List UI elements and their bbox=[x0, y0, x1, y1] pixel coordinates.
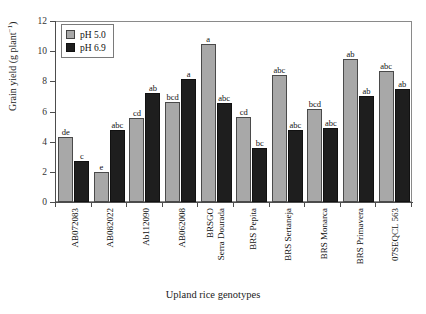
bar-ph50: bcd bbox=[165, 102, 180, 202]
x-tick bbox=[126, 202, 127, 207]
x-tick bbox=[197, 202, 198, 207]
bar-ph69: ab bbox=[145, 93, 160, 202]
bar-value-annotation: abc bbox=[273, 65, 285, 75]
bar-value-annotation: e bbox=[100, 162, 104, 172]
bar-ph69: abc bbox=[288, 130, 303, 202]
bar-value-annotation: bcd bbox=[166, 92, 178, 102]
y-tick-label: 10 bbox=[38, 46, 48, 56]
legend: pH 5.0pH 6.9 bbox=[61, 24, 114, 58]
bar-group: cdbc bbox=[234, 21, 270, 202]
legend-item: pH 6.9 bbox=[66, 41, 106, 54]
bar-value-annotation: ab bbox=[149, 83, 157, 93]
bar-value-annotation: abc bbox=[289, 120, 301, 130]
bar-group: abcabc bbox=[270, 21, 306, 202]
legend-swatch bbox=[66, 43, 75, 52]
bar-group: cdab bbox=[127, 21, 163, 202]
x-axis bbox=[55, 202, 413, 203]
x-tick bbox=[375, 202, 376, 207]
x-axis-title: Upland rice genotypes bbox=[0, 289, 426, 300]
x-tick bbox=[269, 202, 270, 207]
bar-value-annotation: ab bbox=[398, 79, 406, 89]
bar-value-annotation: ab bbox=[347, 49, 355, 59]
y-tick bbox=[50, 81, 55, 82]
bar-value-annotation: abc bbox=[325, 118, 337, 128]
bar-group: abcab bbox=[376, 21, 412, 202]
bar-ph50: cd bbox=[236, 117, 251, 202]
y-axis-title-exponent: −1 bbox=[6, 25, 14, 32]
y-tick-label: 0 bbox=[42, 197, 47, 207]
y-tick-label: 8 bbox=[42, 76, 47, 86]
bar-ph69: abc bbox=[323, 128, 338, 202]
y-tick bbox=[50, 172, 55, 173]
bar-group: bcda bbox=[163, 21, 199, 202]
bar-ph69: abc bbox=[110, 130, 125, 202]
bar-group: abab bbox=[341, 21, 377, 202]
y-axis-title: Grain yield (g plant−1) bbox=[6, 22, 18, 111]
bar-value-annotation: abc bbox=[111, 120, 123, 130]
y-tick-label: 12 bbox=[38, 16, 48, 26]
x-tick bbox=[91, 202, 92, 207]
bar-value-annotation: abc bbox=[380, 61, 392, 71]
bar-ph69: c bbox=[74, 161, 89, 202]
y-tick bbox=[50, 21, 55, 22]
bar-ph50: cd bbox=[129, 118, 144, 202]
bar-ph50: abc bbox=[272, 75, 287, 202]
bar-ph50: abc bbox=[379, 71, 394, 202]
bar-ph50: de bbox=[58, 137, 73, 202]
bar-value-annotation: a bbox=[187, 69, 191, 79]
bar-value-annotation: bcd bbox=[309, 99, 321, 109]
bar-ph50: bcd bbox=[307, 109, 322, 202]
bar-value-annotation: a bbox=[206, 34, 210, 44]
x-tick bbox=[411, 202, 412, 207]
bar-value-annotation: abc bbox=[218, 93, 230, 103]
bar-value-annotation: de bbox=[62, 127, 70, 137]
y-tick-label: 2 bbox=[42, 167, 47, 177]
bar-value-annotation: c bbox=[80, 151, 84, 161]
bar-ph50: e bbox=[94, 172, 109, 202]
y-tick bbox=[50, 112, 55, 113]
y-tick-label: 4 bbox=[42, 137, 47, 147]
bar-ph50: ab bbox=[343, 59, 358, 202]
bar-ph50: a bbox=[201, 44, 216, 202]
legend-label: pH 5.0 bbox=[80, 30, 106, 40]
bar-ph69: ab bbox=[395, 89, 410, 202]
legend-swatch bbox=[66, 30, 75, 39]
y-axis-title-text: Grain yield (g plant bbox=[7, 32, 18, 111]
y-axis-title-tail: ) bbox=[7, 22, 18, 25]
bar-value-annotation: ab bbox=[363, 86, 371, 96]
legend-label: pH 6.9 bbox=[80, 43, 106, 53]
bar-group: bcdabc bbox=[305, 21, 341, 202]
x-tick bbox=[340, 202, 341, 207]
bar-ph69: a bbox=[181, 79, 196, 202]
x-tick-labels: AB072083AB082022Ab112090AB062008BRSGOSer… bbox=[56, 208, 412, 286]
y-tick bbox=[50, 142, 55, 143]
x-tick bbox=[233, 202, 234, 207]
x-tick bbox=[162, 202, 163, 207]
bar-ph69: abc bbox=[217, 103, 232, 202]
bar-value-annotation: cd bbox=[240, 107, 248, 117]
y-tick bbox=[50, 51, 55, 52]
legend-item: pH 5.0 bbox=[66, 28, 106, 41]
x-tick bbox=[304, 202, 305, 207]
bar-value-annotation: bc bbox=[256, 138, 264, 148]
bar-value-annotation: cd bbox=[133, 108, 141, 118]
grain-yield-bar-chart: 024681012 Grain yield (g plant−1) Upland… bbox=[0, 0, 426, 314]
bar-ph69: bc bbox=[252, 148, 267, 202]
bar-ph69: ab bbox=[359, 96, 374, 202]
bar-group: aabc bbox=[198, 21, 234, 202]
y-tick-label: 6 bbox=[42, 107, 47, 117]
x-tick bbox=[55, 202, 56, 207]
